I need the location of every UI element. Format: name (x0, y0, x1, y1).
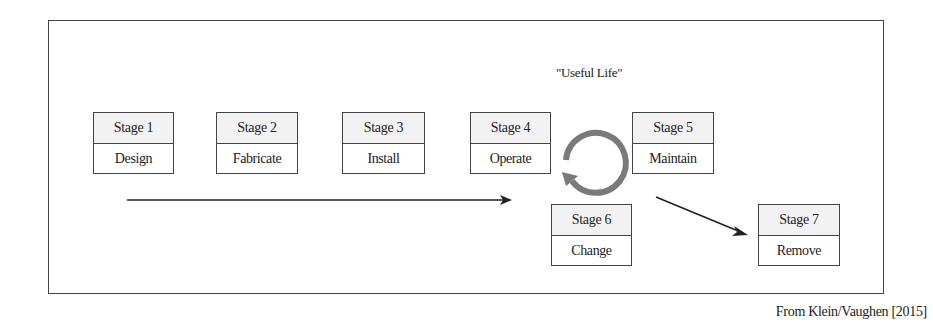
source-credit: From Klein/Vaughen [2015] (776, 304, 927, 320)
removal-arrow-icon (656, 197, 748, 236)
arrows-layer (0, 0, 933, 326)
progress-arrow-icon (127, 195, 512, 205)
cycle-arrow-icon (562, 133, 626, 193)
